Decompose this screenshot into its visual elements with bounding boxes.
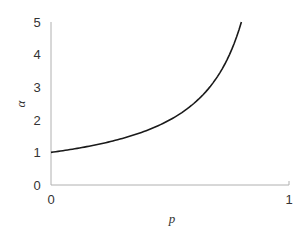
alpha-vs-p-chart: 5 4 3 2 1 0 0 1 p α xyxy=(0,0,305,234)
y-tick-label: 4 xyxy=(33,47,40,62)
y-tick-label: 0 xyxy=(33,178,40,193)
x-axis-label: p xyxy=(168,211,176,226)
y-tick-label: 3 xyxy=(33,80,40,95)
data-series-line xyxy=(51,22,241,152)
x-tick-label: 1 xyxy=(285,192,292,207)
y-axis-label: α xyxy=(13,99,28,107)
y-tick-label: 2 xyxy=(33,113,40,128)
y-tick-label: 5 xyxy=(33,15,40,30)
y-tick-label: 1 xyxy=(33,145,40,160)
x-tick-label: 0 xyxy=(47,192,54,207)
